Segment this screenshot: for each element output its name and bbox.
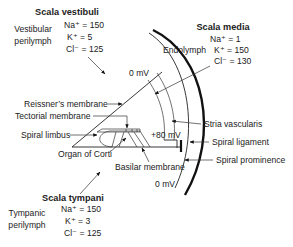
label-stria-vascularis: Stria vascularis (204, 119, 262, 129)
arrow-scala-media (155, 66, 210, 94)
vestibular-perilymph-label-line1: Vestibular (14, 24, 52, 34)
scala-vestibuli-title: Scala vestibuli (35, 7, 99, 17)
vestibuli-k: K⁺ = 5 (67, 32, 93, 42)
media-na: Na⁺ = 1 (210, 34, 241, 44)
vestibuli-cl: Cl⁻ = 125 (66, 44, 103, 54)
media-cl: Cl⁻ = 130 (214, 56, 251, 66)
scala-tympani-title: Scala tympani (42, 193, 104, 203)
tympanic-perilymph-label-line1: Tympanic (9, 208, 46, 218)
tympani-na: Na⁺ = 150 (61, 204, 101, 214)
label-basilar-membrane: Basilar membrane (115, 162, 185, 172)
organ-of-corti-shape (110, 131, 150, 147)
spiral-limbus-shape (100, 131, 112, 147)
label-spiral-ligament: Spiral ligament (212, 137, 269, 147)
arrow-scala-vestibuli (88, 57, 105, 74)
cochlea-cross-section-diagram: Scala vestibuli Vestibular perilymph Na⁺… (0, 0, 293, 247)
potential-media: +80 mV (151, 130, 181, 140)
arrow-basilar-membrane (142, 148, 149, 162)
tympani-k: K⁺ = 3 (65, 216, 91, 226)
label-reissners-membrane: Reissner’s membrane (24, 99, 108, 109)
reissners-membrane-line (72, 72, 162, 147)
label-spiral-prominence: Spiral prominence (216, 155, 285, 165)
media-k: K⁺ = 150 (214, 45, 249, 55)
label-organ-of-corti: Organ of Corti (58, 149, 112, 159)
arrow-stria-vascularis (172, 121, 201, 124)
corti-cell-line-1 (112, 132, 116, 147)
arrow-tectorial-membrane (93, 116, 127, 128)
vestibular-perilymph-label-line2: perilymph (14, 36, 51, 46)
potential-tympani: 0 mV (155, 179, 175, 189)
tectorial-membrane-shape (97, 129, 140, 132)
vestibuli-na: Na⁺ = 150 (64, 20, 104, 30)
tympanic-perilymph-label-line2: perilymph (8, 220, 45, 230)
corti-cell-line-2 (119, 132, 124, 147)
potential-vestibuli: 0 mV (129, 68, 149, 78)
tympani-cl: Cl⁻ = 125 (64, 228, 101, 238)
scala-media-title: Scala media (196, 22, 250, 32)
label-spiral-limbus: Spiral limbus (21, 130, 70, 140)
label-tectorial-membrane: Tectorial membrane (15, 111, 91, 121)
arrow-scala-tympani (80, 172, 100, 194)
